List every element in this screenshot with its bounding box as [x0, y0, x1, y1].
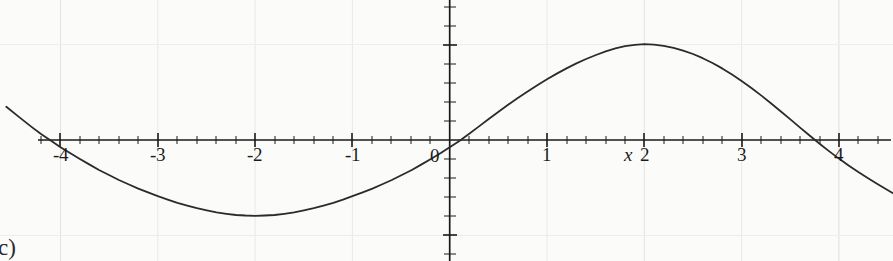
graph-figure: -4 -3 -2 -1 0 1 2 3 4 x c): [0, 0, 893, 261]
x-tick-label-0: 0: [430, 146, 439, 165]
x-tick-label-neg3: -3: [150, 145, 165, 164]
x-tick-label-neg2: -2: [247, 145, 262, 164]
x-tick-label-neg4: -4: [53, 145, 68, 164]
part-label-c: c): [0, 236, 16, 259]
x-tick-label-3: 3: [737, 145, 746, 164]
plot-canvas: [0, 0, 893, 261]
x-tick-label-2: 2: [640, 145, 649, 164]
x-tick-label-1: 1: [542, 145, 551, 164]
x-axis-variable-label: x: [624, 145, 632, 164]
x-tick-label-neg1: -1: [345, 145, 360, 164]
x-tick-label-4: 4: [834, 145, 843, 164]
